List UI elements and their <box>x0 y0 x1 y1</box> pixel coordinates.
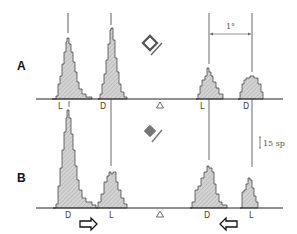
right-arrow-icon <box>80 218 97 230</box>
histogram-peak-b-left-l <box>96 172 127 208</box>
triangle-icon <box>157 102 164 108</box>
axis-label-b-2: L <box>109 211 114 220</box>
filled-diamond-icon <box>144 125 162 142</box>
open-diamond-icon <box>143 36 162 55</box>
angle-annotation: 1° <box>226 22 235 31</box>
panel-label-a: A <box>17 59 26 73</box>
scale-annotation: 15 sp <box>263 139 285 148</box>
axis-label-b-3: D <box>204 211 210 220</box>
histogram-peak-b-right-l <box>240 178 258 208</box>
axis-label-a-3: L <box>200 102 205 111</box>
panel-a: A 1° L D L D <box>17 13 283 111</box>
histogram-peak-a-left-l <box>52 38 92 99</box>
left-arrow-icon <box>220 218 237 230</box>
triangle-icon <box>157 211 164 217</box>
axis-label-a-4: D <box>243 102 249 111</box>
panel-label-b: B <box>17 171 26 185</box>
axis-label-a-2: D <box>100 102 106 111</box>
axis-label-b-1: D <box>65 211 71 220</box>
histogram-peak-b-left-d <box>53 110 96 208</box>
histogram-peak-a-left-d <box>98 28 127 99</box>
panel-b: B 15 sp D L D L <box>17 110 285 230</box>
histogram-figure: A 1° L D L D <box>0 0 297 234</box>
histogram-peak-a-right-d <box>238 76 263 99</box>
histogram-peak-a-right-l <box>196 68 223 99</box>
axis-label-b-4: L <box>249 211 254 220</box>
histogram-peak-b-right-d <box>190 166 227 208</box>
scale-bar: 15 sp <box>259 137 285 148</box>
axis-label-a-1: L <box>58 102 63 111</box>
angle-bracket: 1° <box>210 22 251 36</box>
